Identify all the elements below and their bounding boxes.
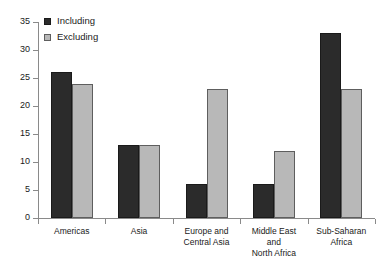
bar-group <box>320 22 362 218</box>
y-axis-tick-label: 35 <box>20 17 30 26</box>
bar-including <box>253 184 274 218</box>
bar-chart: 05101520253035 AmericasAsiaEurope and Ce… <box>0 0 387 280</box>
legend-label-excluding: Excluding <box>57 32 98 42</box>
x-axis-tick <box>105 219 106 224</box>
bar-group <box>118 22 160 218</box>
bar-including <box>51 72 72 218</box>
x-axis-category-label: Asia <box>105 226 172 237</box>
legend-label-including: Including <box>57 16 95 26</box>
y-axis-tick-label: 5 <box>25 185 30 194</box>
x-axis-tick <box>308 219 309 224</box>
x-axis-category-label: Sub-Saharan Africa <box>308 226 375 248</box>
y-axis-tick-label: 15 <box>20 129 30 138</box>
bar-excluding <box>139 145 160 218</box>
plot-area <box>38 22 375 218</box>
bar-including <box>186 184 207 218</box>
bar-excluding <box>341 89 362 218</box>
x-axis-tick <box>240 219 241 224</box>
y-axis-tick-label: 25 <box>20 73 30 82</box>
bar-excluding <box>207 89 228 218</box>
y-axis-tick-label: 10 <box>20 157 30 166</box>
chart-legend: Including Excluding <box>44 13 98 45</box>
legend-swatch-including-icon <box>44 18 51 25</box>
legend-item-including: Including <box>44 13 98 29</box>
x-axis-category-label: Europe and Central Asia <box>173 226 240 248</box>
x-axis-category-label: Americas <box>38 226 105 237</box>
y-axis-tick-label: 20 <box>20 101 30 110</box>
x-axis-tick <box>38 219 39 224</box>
x-axis-category-label: Middle East and North Africa <box>240 226 307 259</box>
bar-excluding <box>72 84 93 218</box>
y-axis-tick-label: 30 <box>20 45 30 54</box>
y-axis-tick-label: 0 <box>25 213 30 222</box>
bar-group <box>186 22 228 218</box>
x-axis-tick <box>375 219 376 224</box>
bar-group <box>51 22 93 218</box>
bar-excluding <box>274 151 295 218</box>
legend-swatch-excluding-icon <box>44 34 51 41</box>
bar-group <box>253 22 295 218</box>
legend-item-excluding: Excluding <box>44 29 98 45</box>
x-axis-tick <box>173 219 174 224</box>
x-axis-line <box>38 218 375 219</box>
bar-including <box>320 33 341 218</box>
bar-including <box>118 145 139 218</box>
